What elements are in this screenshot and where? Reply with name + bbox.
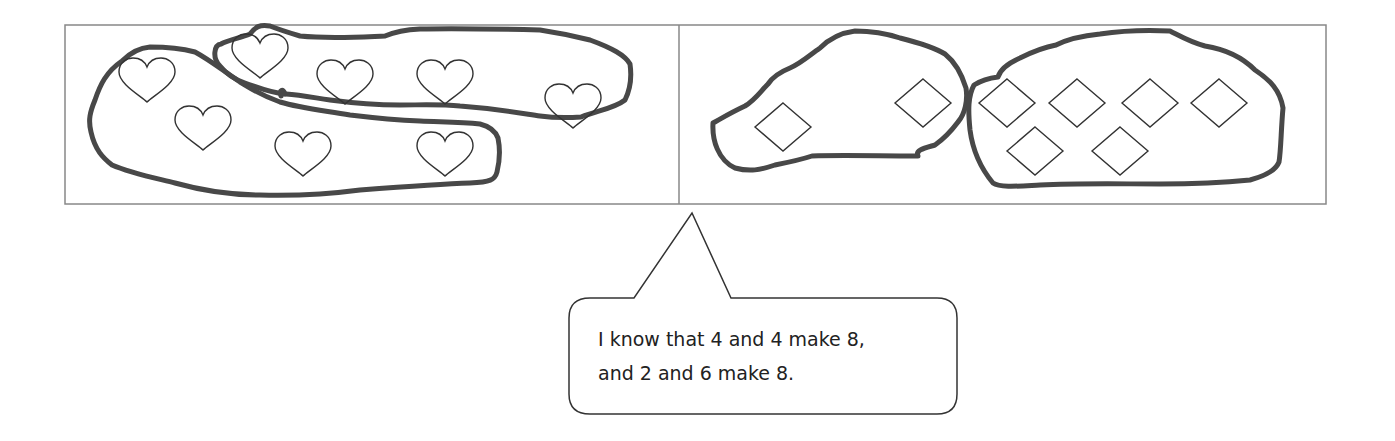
diamond-icon bbox=[1191, 79, 1247, 127]
diamond-icon bbox=[1122, 79, 1178, 127]
diamond-icon bbox=[1092, 127, 1148, 175]
heart-icon bbox=[275, 132, 331, 176]
diamonds bbox=[755, 79, 1247, 175]
diamond-icon bbox=[895, 79, 951, 127]
heart-loop-upper bbox=[215, 25, 631, 117]
heart-icon bbox=[175, 106, 231, 150]
heart-icon bbox=[232, 34, 288, 78]
heart-icon bbox=[545, 84, 601, 128]
diamond-icon bbox=[755, 103, 811, 151]
callout-line-2: and 2 and 6 make 8. bbox=[598, 356, 938, 390]
diamond-icon bbox=[1049, 79, 1105, 127]
heart-loop-lower bbox=[90, 47, 500, 195]
heart-icon bbox=[119, 58, 175, 102]
callout-text: I know that 4 and 4 make 8, and 2 and 6 … bbox=[598, 322, 938, 390]
hearts-group-loops bbox=[90, 25, 631, 195]
diamond-loop-left bbox=[713, 31, 967, 170]
heart-icon bbox=[417, 132, 473, 176]
panel-frame bbox=[65, 25, 1326, 204]
diamond-icon bbox=[979, 79, 1035, 127]
heart-loop-knot bbox=[280, 90, 285, 96]
heart-icon bbox=[417, 60, 473, 104]
callout-line-1: I know that 4 and 4 make 8, bbox=[598, 322, 938, 356]
diamond-icon bbox=[1007, 127, 1063, 175]
diamond-loop-right bbox=[969, 31, 1283, 187]
